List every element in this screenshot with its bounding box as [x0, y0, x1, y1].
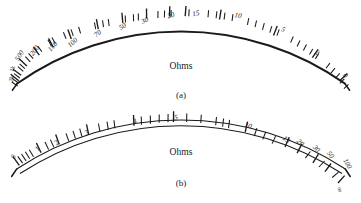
tick-major: [220, 10, 222, 20]
scale-a-label-2: 500: [13, 49, 26, 63]
tick-minor: [29, 150, 33, 157]
scale-b-unit-label: Ohms: [170, 146, 193, 157]
tick-minor: [25, 57, 30, 62]
tick-minor: [216, 11, 217, 18]
tick-minor: [45, 142, 49, 149]
tick-minor: [108, 19, 109, 26]
scale-a-label-7: 50: [118, 21, 129, 32]
tick-minor: [303, 45, 306, 51]
tick-minor: [332, 172, 338, 177]
scale-a-label-5: 100: [66, 36, 80, 49]
tick-major: [68, 29, 71, 39]
scale-a-label-11: 10: [234, 11, 243, 20]
tick-major: [313, 154, 319, 163]
scale-b-arc-outer: [17, 120, 346, 169]
tick-minor: [66, 133, 69, 141]
tick-minor: [310, 49, 313, 55]
tick-minor: [20, 64, 25, 69]
scale-a-label-10: 15: [192, 9, 201, 18]
tick-minor: [22, 154, 27, 161]
scale-b-label-10: 50: [325, 150, 336, 161]
tick-major: [185, 6, 186, 16]
scale-b-label-9: 30: [310, 143, 322, 155]
tick-minor: [80, 129, 82, 137]
scale-b-label-11: 100: [341, 157, 353, 171]
tick-minor: [98, 124, 100, 132]
tick-major: [338, 176, 345, 183]
scale-a-label-9: 20: [166, 11, 175, 21]
tick-minor: [326, 63, 330, 68]
scale-a-label-1: 1k: [8, 65, 16, 72]
tick-minor: [255, 21, 257, 28]
tick-minor: [263, 23, 265, 30]
tick-minor: [79, 27, 81, 34]
tick-minor: [291, 37, 294, 43]
scale-b-left-end: [12, 169, 17, 177]
scale-a-unit-label: Ohms: [170, 60, 193, 71]
figure-svg: 2k1k500200150100705030201510520 Ohms (a): [0, 0, 361, 203]
tick-minor: [224, 13, 225, 20]
panel-a-caption: (a): [176, 90, 186, 100]
scale-b-label-12: ∞: [335, 186, 344, 193]
scale-b-right-end: [345, 169, 350, 177]
scale-a-label-6: 70: [93, 28, 104, 39]
panel-b-caption: (b): [176, 178, 187, 188]
tick-minor: [297, 41, 300, 47]
tick-minor: [232, 14, 233, 21]
tick-minor: [270, 26, 272, 32]
panel-a-group: 2k1k500200150100705030201510520 Ohms (a): [7, 6, 350, 100]
scale-a-arc: [17, 32, 345, 84]
tick-minor: [103, 20, 104, 27]
tick-minor: [331, 68, 335, 73]
scale-a-label-4: 150: [46, 40, 59, 54]
tick-minor: [201, 115, 202, 123]
tick-minor: [247, 18, 248, 25]
tick-major: [274, 26, 278, 35]
tick-minor: [94, 22, 95, 29]
tick-minor: [18, 156, 23, 163]
tick-minor: [216, 117, 217, 125]
tick-minor: [223, 119, 224, 127]
tick-minor: [107, 122, 108, 130]
ohmmeter-scales-figure: 2k1k500200150100705030201510520 Ohms (a): [0, 0, 361, 203]
tick-minor: [18, 67, 23, 72]
tick-minor: [71, 29, 73, 36]
scale-b-label-0: 0: [9, 153, 18, 160]
scale-b-label-6: 10: [243, 121, 253, 131]
panel-b-group: 0123451015203050100∞ Ohms (b): [9, 111, 353, 193]
tick-minor: [229, 120, 230, 128]
scale-a-ticks: [11, 6, 349, 89]
tick-minor: [277, 29, 279, 35]
scale-b-label-4: 4: [132, 117, 138, 126]
tick-minor: [25, 152, 29, 159]
scale-b-label-5: 5: [174, 113, 179, 121]
scale-a-label-8: 30: [139, 15, 150, 26]
tick-major: [96, 19, 98, 29]
scale-a-label-12: 5: [280, 25, 287, 34]
tick-minor: [73, 131, 76, 139]
tick-minor: [63, 32, 66, 38]
tick-minor: [208, 10, 209, 17]
scale-a-labels: 2k1k500200150100705030201510520: [7, 9, 350, 82]
